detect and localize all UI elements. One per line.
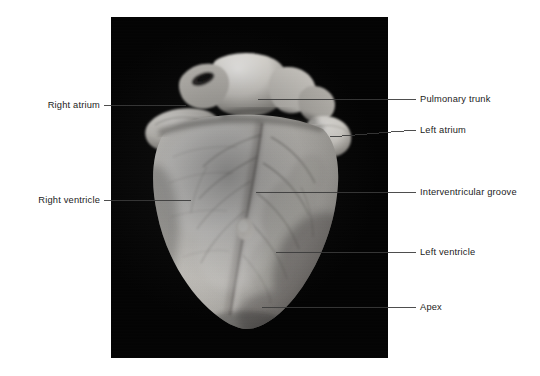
label-left-ventricle: Left ventricle — [420, 247, 475, 258]
label-right-ventricle-text: Right ventricle — [38, 195, 100, 205]
label-right-ventricle: Right ventricle — [38, 195, 100, 206]
heart-specimen-image — [111, 17, 388, 358]
label-right-atrium: Right atrium — [48, 100, 100, 111]
label-left-atrium: Left atrium — [420, 125, 466, 136]
figure-root: Right atrium Right ventricle Pulmonary t… — [0, 0, 540, 376]
label-right-atrium-text: Right atrium — [48, 100, 100, 110]
specimen-photo-plate — [111, 17, 388, 358]
label-apex-text: Apex — [420, 302, 442, 312]
label-interventricular-groove-text: Interventricular groove — [420, 187, 517, 197]
label-left-ventricle-text: Left ventricle — [420, 247, 475, 257]
label-apex: Apex — [420, 302, 442, 313]
label-pulmonary-trunk: Pulmonary trunk — [420, 94, 490, 105]
label-interventricular-groove: Interventricular groove — [420, 187, 517, 198]
label-left-atrium-text: Left atrium — [420, 125, 466, 135]
label-pulmonary-trunk-text: Pulmonary trunk — [420, 94, 490, 104]
